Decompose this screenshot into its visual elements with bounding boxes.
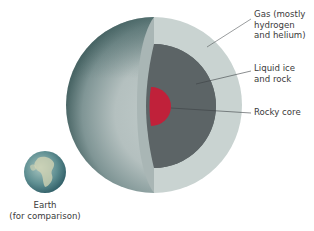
label-earth: Earth (for comparison) [0, 200, 90, 221]
leader-line-gas [207, 19, 251, 47]
label-mantle: Liquid ice and rock [254, 63, 295, 84]
label-core: Rocky core [254, 107, 301, 118]
label-gas: Gas (mostly hydrogen and helium) [254, 9, 306, 41]
earth-globe [24, 151, 66, 193]
